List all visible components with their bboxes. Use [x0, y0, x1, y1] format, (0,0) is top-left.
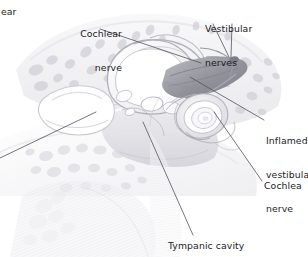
label-cochlear-nerve-line1: Cochlear [52, 28, 122, 39]
label-vestibular-nerves-line2: nerves [205, 57, 283, 68]
label-ear-partial: ear [1, 6, 27, 17]
label-inflamed-line2: vestibular [266, 169, 308, 180]
label-tympanic-cavity: Tympanic cavity [168, 240, 258, 251]
label-vestibular-nerves: Vestibular nerves [205, 0, 283, 91]
label-inflamed-line1: Inflamed [266, 135, 308, 146]
label-cochlea: Cochlea [264, 180, 308, 191]
label-inflamed-vestibular-nerve: Inflamed vestibular nerve [266, 112, 308, 237]
label-cochlear-nerve-line2: nerve [52, 62, 122, 73]
label-inflamed-line3: nerve [266, 203, 308, 214]
label-cochlear-nerve: Cochlear nerve [52, 5, 122, 96]
label-vestibular-nerves-line1: Vestibular [205, 23, 283, 34]
inner-ear-illustration: ear Cochlear nerve Vestibular nerves Inf… [0, 0, 308, 257]
